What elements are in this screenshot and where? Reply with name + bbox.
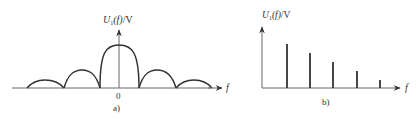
spectrum-figure: U1(f)/V 0 a) f U1(f)/V f b) xyxy=(0,0,416,119)
side-lobe-right-1 xyxy=(139,70,176,88)
panel-b-y-label: U1(f)/V xyxy=(262,10,290,21)
panel-a-x-arrow: f xyxy=(208,82,230,93)
panel-b: U1(f)/V f b) xyxy=(262,10,409,107)
panel-a-y-label: U1(f)/V xyxy=(103,14,133,26)
panel-a-origin-label: 0 xyxy=(116,91,121,101)
panel-a-caption: a) xyxy=(113,103,120,113)
side-lobe-right-2 xyxy=(176,80,212,88)
side-lobe-left-2 xyxy=(27,80,64,88)
panel-a-x-label: f xyxy=(226,82,230,93)
panel-b-spectral-lines xyxy=(287,44,380,88)
panel-a: U1(f)/V 0 a) xyxy=(12,14,212,113)
side-lobe-left-1 xyxy=(64,70,100,88)
panel-b-x-label: f xyxy=(405,82,409,93)
panel-b-caption: b) xyxy=(322,97,330,107)
